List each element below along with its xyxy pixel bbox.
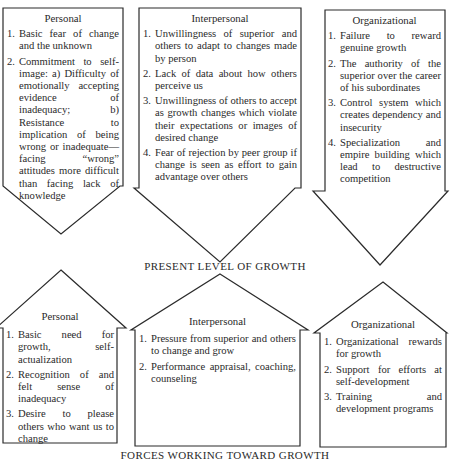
panel-title: Organizational bbox=[324, 318, 442, 330]
list-item: 2.Lack of data about how others perceive… bbox=[143, 68, 297, 92]
list-item: 1.Basic need for growth, self-actualizat… bbox=[6, 329, 114, 366]
item-list: 1.Pressure from superior and others to c… bbox=[139, 333, 296, 385]
restraining-interpersonal-panel: Interpersonal 1.Unwillingness of superio… bbox=[143, 12, 297, 187]
panel-title: Personal bbox=[6, 310, 114, 322]
panel-title: Interpersonal bbox=[139, 315, 296, 327]
list-item: 1.Basic fear of change and the unknown bbox=[7, 28, 119, 52]
list-item: 2.The authority of the superior over the… bbox=[328, 58, 441, 95]
list-item: 4.Specialization and empire building whi… bbox=[328, 137, 441, 186]
list-item: 3.Control system which creates dependenc… bbox=[328, 97, 441, 134]
item-list: 1.Unwillingness of superior and others t… bbox=[143, 28, 297, 183]
list-item: 2.Commitment to self-image: a) Difficult… bbox=[7, 56, 119, 202]
list-item: 1.Failure to reward genuine growth bbox=[328, 30, 441, 54]
restraining-personal-panel: Personal 1.Basic fear of change and the … bbox=[7, 12, 119, 205]
list-item: 3.Unwillingness of others to accept as g… bbox=[143, 95, 297, 144]
driving-organizational-panel: Organizational 1.Organizational rewards … bbox=[324, 318, 442, 418]
list-item: 3.Desire to please others who want us to… bbox=[6, 408, 114, 445]
panel-title: Organizational bbox=[328, 14, 441, 26]
present-level-label: PRESENT LEVEL OF GROWTH bbox=[0, 260, 450, 272]
list-item: 2.Support for efforts at self-developmen… bbox=[324, 364, 442, 388]
item-list: 1.Basic fear of change and the unknown 2… bbox=[7, 28, 119, 202]
list-item: 2.Recognition of and felt sense of inade… bbox=[6, 369, 114, 406]
list-item: 3.Training and development programs bbox=[324, 391, 442, 415]
list-item: 1.Organizational rewards for growth bbox=[324, 336, 442, 360]
item-list: 1.Organizational rewards for growth 2.Su… bbox=[324, 336, 442, 415]
item-list: 1.Basic need for growth, self-actualizat… bbox=[6, 329, 114, 445]
list-item: 2.Performance appraisal, coaching, couns… bbox=[139, 361, 296, 385]
panel-title: Interpersonal bbox=[143, 12, 297, 24]
driving-interpersonal-panel: Interpersonal 1.Pressure from superior a… bbox=[139, 315, 296, 388]
list-item: 4.Fear of rejection by peer group if cha… bbox=[143, 147, 297, 184]
item-list: 1.Failure to reward genuine growth 2.The… bbox=[328, 30, 441, 185]
restraining-organizational-panel: Organizational 1.Failure to reward genui… bbox=[328, 14, 441, 189]
driving-personal-panel: Personal 1.Basic need for growth, self-a… bbox=[6, 310, 114, 448]
panel-title: Personal bbox=[7, 12, 119, 24]
driving-forces-label: FORCES WORKING TOWARD GROWTH bbox=[0, 449, 450, 461]
list-item: 1.Pressure from superior and others to c… bbox=[139, 333, 296, 357]
list-item: 1.Unwillingness of superior and others t… bbox=[143, 28, 297, 65]
